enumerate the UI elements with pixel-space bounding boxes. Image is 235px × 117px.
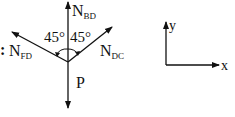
angle-label-left: 45°	[44, 29, 65, 45]
coordinate-axes: y x	[166, 18, 228, 73]
angle-label-right: 45°	[70, 29, 91, 45]
force-label-n-fd: NFD	[9, 42, 33, 61]
force-label-p: P	[76, 74, 85, 91]
free-body-diagram: : 45° 45° NBD NFD NDC P y x	[0, 0, 235, 117]
arc-arrowhead-left	[55, 52, 60, 57]
force-label-n-dc: NDC	[100, 42, 124, 61]
x-axis-label: x	[221, 58, 228, 73]
label-prefix: :	[0, 41, 5, 58]
y-axis-label: y	[169, 18, 176, 33]
force-label-n-bd: NBD	[72, 2, 97, 21]
